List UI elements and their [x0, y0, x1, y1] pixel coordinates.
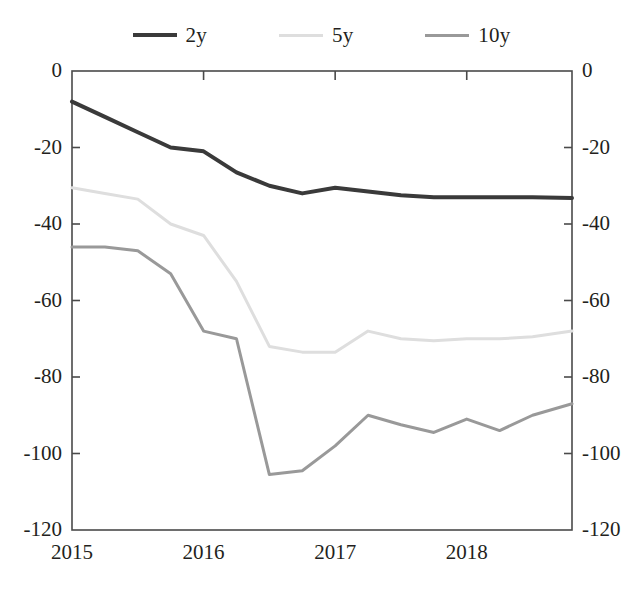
series-line-10y: [72, 247, 572, 475]
y-axis-label-left: -20: [0, 137, 62, 158]
y-axis-label-right: -60: [582, 290, 643, 311]
x-axis-label: 2017: [295, 542, 375, 563]
x-axis-label: 2015: [32, 542, 112, 563]
y-axis-label-right: -20: [582, 137, 643, 158]
x-axis-label: 2018: [427, 542, 507, 563]
series-line-5y: [72, 188, 572, 352]
plot-frame: [72, 71, 572, 530]
y-axis-label-right: 0: [582, 60, 643, 81]
y-axis-label-left: 0: [0, 60, 62, 81]
series-line-2y: [72, 102, 572, 198]
chart-svg: [0, 0, 643, 592]
y-axis-label-right: -40: [582, 213, 643, 234]
y-axis-label-left: -60: [0, 290, 62, 311]
y-axis-label-left: -100: [0, 443, 62, 464]
y-axis-label-right: -80: [582, 366, 643, 387]
y-axis-label-left: -80: [0, 366, 62, 387]
y-axis-label-left: -40: [0, 213, 62, 234]
y-axis-label-right: -120: [582, 519, 643, 540]
chart-figure: 2y 5y 10y 0-20-40-60-80-100-1200-20-40-6…: [0, 0, 643, 592]
x-axis-label: 2016: [164, 542, 244, 563]
y-axis-label-right: -100: [582, 443, 643, 464]
y-axis-label-left: -120: [0, 519, 62, 540]
plot-area: [0, 0, 643, 592]
